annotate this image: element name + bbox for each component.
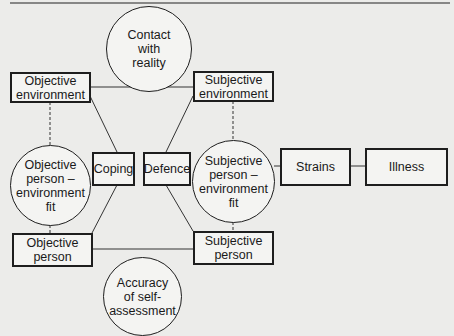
- accuracy-self-assessment-node: Accuracy of self- assessment: [103, 257, 182, 336]
- node-label: Illness: [389, 160, 424, 174]
- edge-obj-env-coping: [90, 96, 117, 152]
- contact-with-reality-node: Contact with reality: [106, 6, 192, 92]
- node-label: Objective: [26, 236, 78, 250]
- objective-pe-fit-node: Objective person – environment fit: [10, 145, 91, 226]
- node-label: person –: [209, 168, 258, 182]
- node-label: assessment: [109, 304, 176, 318]
- objective-person-node: Objective person: [12, 233, 93, 267]
- node-label: person: [33, 250, 71, 264]
- edge-coping-obj-person: [92, 185, 117, 233]
- strains-node: Strains: [280, 148, 351, 186]
- node-label: Objective: [24, 74, 76, 88]
- node-label: person –: [26, 172, 75, 186]
- node-label: fit: [46, 200, 56, 214]
- node-label: environment: [16, 88, 85, 102]
- illness-node: Illness: [365, 148, 448, 186]
- node-label: fit: [229, 196, 239, 210]
- edge-defence-subj-person: [166, 185, 193, 231]
- subjective-pe-fit-node: Subjective person – environment fit: [192, 140, 275, 223]
- objective-environment-node: Objective environment: [10, 72, 91, 103]
- node-label: environment: [199, 182, 268, 196]
- node-label: Accuracy: [117, 276, 168, 290]
- defence-node: Defence: [143, 152, 191, 186]
- node-label: Coping: [94, 162, 134, 176]
- coping-node: Coping: [92, 152, 135, 186]
- node-label: Objective: [24, 158, 76, 172]
- node-label: of self-: [124, 290, 162, 304]
- node-label: environment: [199, 87, 268, 101]
- node-label: person: [214, 248, 252, 262]
- node-label: with: [138, 42, 160, 56]
- node-label: Subjective: [205, 154, 263, 168]
- node-label: Contact: [127, 28, 170, 42]
- node-label: Strains: [296, 160, 335, 174]
- node-label: Subjective: [205, 73, 263, 87]
- node-label: reality: [132, 56, 165, 70]
- node-label: environment: [16, 186, 85, 200]
- node-label: Subjective: [205, 234, 263, 248]
- edge-subj-env-defence: [166, 96, 193, 152]
- subjective-person-node: Subjective person: [193, 231, 274, 265]
- node-label: Defence: [144, 162, 191, 176]
- subjective-environment-node: Subjective environment: [193, 71, 274, 102]
